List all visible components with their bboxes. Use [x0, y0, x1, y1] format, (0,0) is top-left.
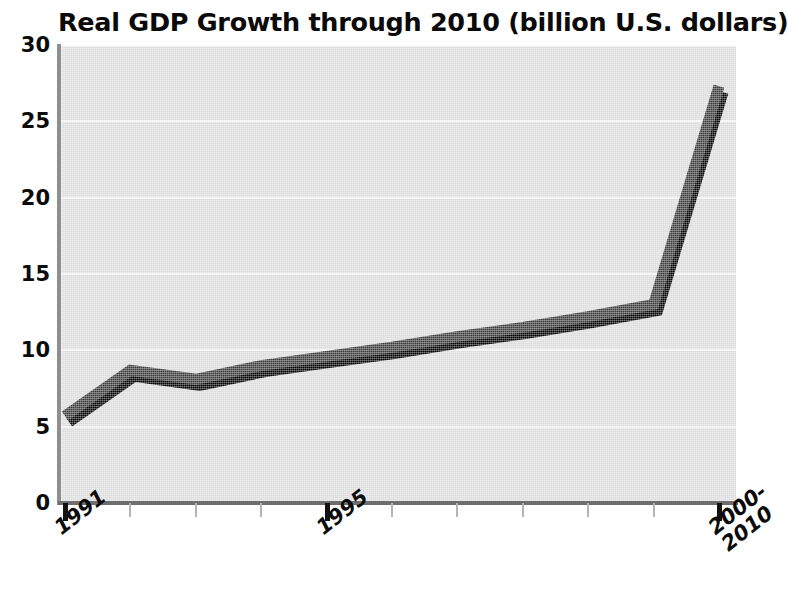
- x-axis-tick-minor: [456, 503, 458, 517]
- series-line-main: [65, 86, 719, 416]
- x-axis-tick-minor: [391, 503, 393, 517]
- x-axis-tick-minor: [587, 503, 589, 517]
- plot-area: [60, 45, 736, 503]
- y-axis-tick-label: 5: [0, 415, 50, 439]
- x-axis-tick-minor: [653, 503, 655, 517]
- y-axis-tick-label: 15: [0, 262, 50, 286]
- x-axis-tick-minor: [129, 503, 131, 517]
- y-axis-tick-label: 20: [0, 186, 50, 210]
- chart-title: Real GDP Growth through 2010 (billion U.…: [58, 2, 748, 42]
- y-axis-tick-label: 0: [0, 491, 50, 515]
- x-axis-line: [58, 501, 738, 505]
- x-axis-tick-minor: [260, 503, 262, 517]
- y-axis-line: [57, 44, 61, 505]
- series-line-real-gdp-growth: [60, 45, 736, 503]
- x-axis-tick-minor: [195, 503, 197, 517]
- y-axis-tick-label: 30: [0, 33, 50, 57]
- y-axis-tick-label: 25: [0, 109, 50, 133]
- x-axis-tick-minor: [522, 503, 524, 517]
- y-axis-tick-label: 10: [0, 338, 50, 362]
